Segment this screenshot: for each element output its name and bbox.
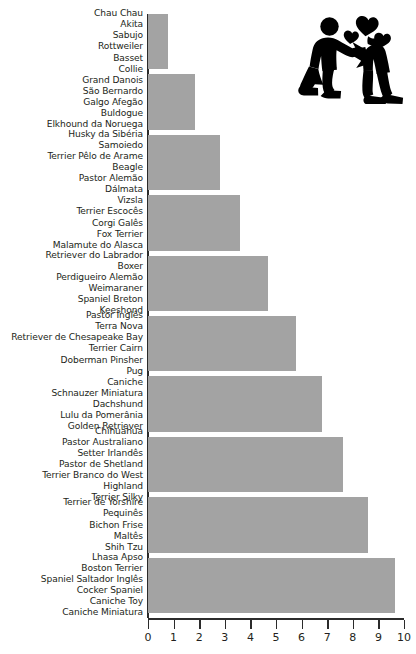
bar <box>148 256 268 311</box>
x-axis-tick-label: 6 <box>290 631 314 644</box>
plot-area <box>148 14 404 618</box>
x-axis-tick <box>250 620 251 629</box>
x-axis-tick <box>327 620 328 629</box>
x-axis-tick-label: 7 <box>315 631 339 644</box>
category-label: Retriever do Labrador Boxer Perdigueiro … <box>0 250 143 317</box>
category-label: Grand Danois São Bernardo Galgo Afegão B… <box>0 75 143 130</box>
bar-fill <box>148 14 168 69</box>
category-label: Pastor Inglês Terra Nova Retriever de Ch… <box>0 310 143 377</box>
bar-chart-figure: Chau Chau Akita Sabujo Rottweiler Basset… <box>0 0 416 654</box>
bar <box>148 74 195 129</box>
category-label: Terrier de Yorshire Pequinês Bichon Fris… <box>0 497 143 552</box>
bar <box>148 497 368 552</box>
bar <box>148 558 395 613</box>
category-label: Lhasa Apso Boston Terrier Spaniel Saltad… <box>0 552 143 619</box>
x-axis-tick <box>148 620 149 629</box>
category-label: Chihuahua Pastor Australiano Setter Irla… <box>0 426 143 504</box>
x-axis-tick <box>276 620 277 629</box>
bar <box>148 437 343 492</box>
category-label: Husky da Sibéria Samoiedo Terrier Pêlo d… <box>0 129 143 196</box>
bar <box>148 376 322 431</box>
x-axis-tick-label: 8 <box>341 631 365 644</box>
bar-fill <box>148 316 296 371</box>
bar <box>148 195 240 250</box>
x-axis-tick-label: 10 <box>392 631 416 644</box>
category-label: Caniche Schnauzer Miniatura Dachshund Lu… <box>0 377 143 432</box>
bar <box>148 14 168 69</box>
x-axis-tick-label: 9 <box>366 631 390 644</box>
bar-fill <box>148 376 322 431</box>
bar <box>148 135 220 190</box>
x-axis-tick <box>199 620 200 629</box>
bar-fill <box>148 256 268 311</box>
bar-fill <box>148 195 240 250</box>
x-axis-tick-label: 0 <box>136 631 160 644</box>
x-axis-tick-label: 5 <box>264 631 288 644</box>
x-axis-tick-label: 2 <box>187 631 211 644</box>
x-axis-tick <box>378 620 379 629</box>
x-axis-tick-label: 4 <box>238 631 262 644</box>
category-label-column: Chau Chau Akita Sabujo Rottweiler Basset… <box>0 0 145 654</box>
bar-fill <box>148 497 368 552</box>
bar-fill <box>148 74 195 129</box>
bar-fill <box>148 135 220 190</box>
x-axis-tick <box>353 620 354 629</box>
x-axis-tick-label: 1 <box>162 631 186 644</box>
x-axis-tick <box>302 620 303 629</box>
category-label: Vizsla Terrier Escocês Corgi Galês Fox T… <box>0 195 143 250</box>
bar-fill <box>148 437 343 492</box>
category-label: Chau Chau Akita Sabujo Rottweiler Basset… <box>0 8 143 75</box>
bar <box>148 316 296 371</box>
bar-fill <box>148 558 395 613</box>
x-axis-tick <box>225 620 226 629</box>
x-axis-tick <box>404 620 405 629</box>
x-axis-tick <box>174 620 175 629</box>
proposal-couple-hearts-icon <box>296 2 412 104</box>
x-axis-tick-label: 3 <box>213 631 237 644</box>
